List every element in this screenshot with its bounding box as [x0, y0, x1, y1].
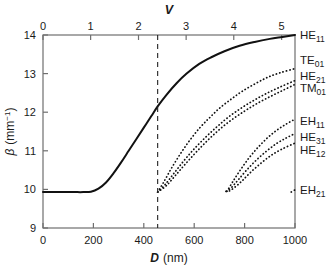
- y-tick-label: 11: [25, 145, 36, 157]
- left-axis-close-paren: ): [3, 108, 17, 112]
- v-tick-label: 0: [40, 20, 46, 32]
- mode-label-subscript: 01: [317, 87, 327, 97]
- chart-background: [0, 0, 334, 267]
- y-tick-label: 14: [24, 29, 36, 41]
- bottom-axis-unit: (nm): [163, 251, 188, 265]
- mode-label-subscript: 11: [316, 120, 325, 130]
- v-tick-label: 1: [88, 20, 94, 32]
- y-tick-label: 9: [30, 222, 36, 234]
- v-tick-label: 2: [135, 20, 141, 32]
- x-tick-label: 800: [235, 234, 253, 246]
- y-tick-label: 13: [24, 68, 36, 80]
- left-axis-symbol: β: [3, 148, 17, 156]
- mode-label-subscript: 01: [315, 59, 325, 69]
- x-tick-label: 1000: [283, 234, 307, 246]
- x-tick-label: 200: [84, 234, 102, 246]
- left-axis-unit: (mm: [3, 121, 17, 145]
- figure-root: 9101112131402004006008001000012345 HE11T…: [0, 0, 334, 267]
- mode-label-subscript: 21: [316, 75, 326, 85]
- mode-label-subscript: 31: [316, 136, 326, 146]
- dispersion-chart: 9101112131402004006008001000012345 HE11T…: [0, 0, 334, 267]
- mode-label-subscript: 12: [316, 149, 326, 159]
- mode-label-subscript: 11: [316, 34, 325, 44]
- v-tick-label: 3: [183, 20, 189, 32]
- v-tick-label: 4: [231, 20, 237, 32]
- bottom-axis-symbol: D: [150, 251, 159, 265]
- y-tick-label: 10: [24, 183, 36, 195]
- y-tick-label: 12: [24, 106, 36, 118]
- mode-label-subscript: 21: [316, 189, 326, 199]
- x-tick-label: 0: [40, 234, 46, 246]
- x-tick-label: 400: [135, 234, 153, 246]
- x-tick-label: 600: [185, 234, 203, 246]
- bottom-axis-title: D(nm): [150, 251, 187, 265]
- v-tick-label: 5: [279, 20, 285, 32]
